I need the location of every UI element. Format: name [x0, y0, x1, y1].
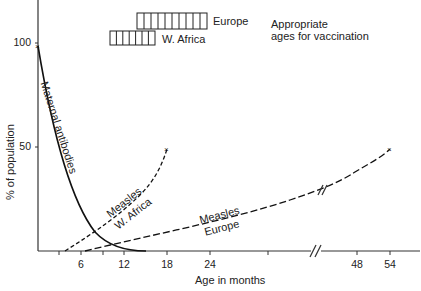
wafrica-bar	[110, 31, 155, 45]
x-tick-48: 48	[351, 259, 363, 270]
x-tick-18: 18	[161, 259, 173, 270]
note-line1: Appropriate	[271, 18, 328, 30]
svg-text:×: ×	[35, 42, 40, 51]
x-tick-6: 6	[78, 259, 84, 270]
svg-text:×: ×	[387, 145, 392, 154]
y-axis-label: % of population	[4, 124, 16, 200]
x-tick-12: 12	[118, 259, 130, 270]
x-axis-label: Age in months	[195, 274, 265, 286]
x-tick-24: 24	[204, 259, 216, 270]
svg-text:×: ×	[164, 145, 169, 154]
y-tick-100: 100	[5, 37, 31, 48]
legend-europe: Europe	[213, 15, 248, 27]
legend-wafrica: W. Africa	[162, 33, 205, 45]
europe-bar	[137, 13, 207, 29]
note-line2: ages for vaccination	[271, 30, 369, 42]
x-tick-54: 54	[384, 259, 396, 270]
